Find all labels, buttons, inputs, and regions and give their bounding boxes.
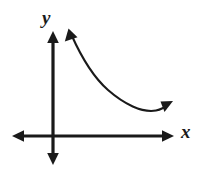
graph-canvas [0,0,211,176]
curve-start-arrow-icon [65,29,78,42]
axes-group [12,31,174,165]
curve-end-arrow-icon [161,101,174,112]
x-axis-label: x [181,122,191,141]
curve-group [65,29,173,113]
y-axis-label: y [42,8,50,27]
exponential-decay-curve [72,35,169,111]
y-axis-top-arrow-icon [47,31,59,43]
y-axis-bottom-arrow-icon [47,153,59,165]
x-axis-left-arrow-icon [12,130,24,142]
coordinate-graph-figure: y x [0,0,211,176]
x-axis-right-arrow-icon [162,130,174,142]
